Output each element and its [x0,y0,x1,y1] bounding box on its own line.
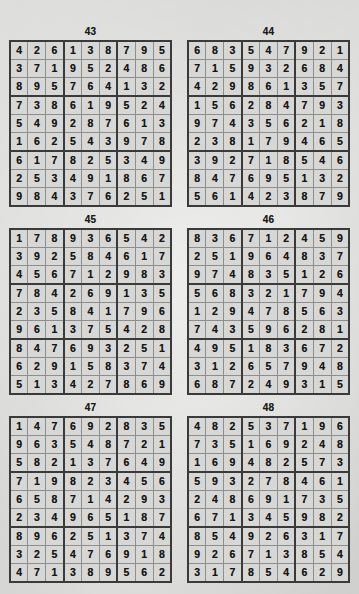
sudoku-cell: 5 [82,60,100,78]
sudoku-cell: 6 [206,454,224,473]
sudoku-cell: 9 [99,284,117,303]
sudoku-cell: 4 [313,151,331,170]
sudoku-cell: 3 [64,564,82,583]
sudoku-cell: 1 [242,339,260,358]
sudoku-cell: 9 [117,546,135,564]
sudoku-cell: 6 [46,527,64,546]
sudoku-cell: 3 [331,303,349,321]
sudoku-cell: 6 [277,527,295,546]
sudoku-cell: 3 [242,115,260,133]
sudoku-cell: 8 [153,321,171,340]
sudoku-cell: 6 [242,358,260,376]
sudoku-cell: 7 [260,303,278,321]
sudoku-cell: 3 [206,436,224,454]
sudoku-row: 495183672 [188,339,349,358]
sudoku-cell: 3 [277,339,295,358]
sudoku-cell: 8 [117,170,135,188]
sudoku-cell: 7 [64,491,82,509]
sudoku-cell: 9 [331,229,349,248]
puzzle-number-label: 43 [9,26,172,38]
sudoku-cell: 3 [64,188,82,207]
sudoku-cell: 2 [277,229,295,248]
sudoku-cell: 5 [46,78,64,97]
sudoku-row: 568321794 [188,284,349,303]
puzzle-46: 46 8367124592519648379748351265683217941… [187,214,350,395]
sudoku-cell: 7 [188,60,206,78]
sudoku-row: 169482573 [188,454,349,473]
sudoku-cell: 8 [64,151,82,170]
sudoku-cell: 5 [82,358,100,376]
sudoku-cell: 2 [46,454,64,473]
sudoku-cell: 1 [242,436,260,454]
puzzle-number-label: 48 [187,402,350,414]
sudoku-row: 234965187 [10,509,171,528]
sudoku-cell: 9 [64,229,82,248]
puzzle-number-label: 45 [9,214,172,226]
sudoku-cell: 8 [10,339,28,358]
sudoku-cell: 4 [295,229,313,248]
sudoku-cell: 3 [188,358,206,376]
sudoku-cell: 8 [82,248,100,266]
sudoku-row: 743596281 [188,321,349,340]
sudoku-cell: 9 [277,133,295,152]
sudoku-cell: 5 [242,417,260,436]
sudoku-cell: 5 [206,248,224,266]
sudoku-row: 312657948 [188,358,349,376]
sudoku-cell: 9 [224,78,242,97]
sudoku-cell: 9 [188,546,206,564]
sudoku-cell: 7 [188,436,206,454]
sudoku-cell: 8 [277,472,295,491]
sudoku-row: 582137649 [10,454,171,473]
sudoku-row: 683547921 [188,41,349,60]
sudoku-cell: 9 [206,339,224,358]
sudoku-row: 513427869 [10,376,171,395]
sudoku-cell: 9 [260,170,278,188]
sudoku-cell: 6 [260,78,278,97]
sudoku-grid-46: 8367124592519648379748351265683217941294… [187,228,350,395]
sudoku-cell: 3 [135,284,153,303]
sudoku-cell: 9 [82,339,100,358]
puzzle-number-label: 47 [9,402,172,414]
sudoku-cell: 6 [46,266,64,285]
sudoku-cell: 6 [135,376,153,395]
sudoku-cell: 8 [46,229,64,248]
sudoku-cell: 8 [260,454,278,473]
sudoku-cell: 7 [313,188,331,207]
sudoku-cell: 8 [313,60,331,78]
sudoku-cell: 3 [10,60,28,78]
sudoku-cell: 2 [188,133,206,152]
sudoku-cell: 6 [153,60,171,78]
sudoku-cell: 8 [153,546,171,564]
sudoku-cell: 9 [117,266,135,285]
sudoku-cell: 8 [331,436,349,454]
puzzle-48: 48 4825371967351692481694825735932784612… [187,402,350,583]
sudoku-cell: 6 [242,170,260,188]
sudoku-cell: 8 [331,358,349,376]
sudoku-cell: 3 [64,321,82,340]
sudoku-cell: 2 [28,358,46,376]
sudoku-cell: 4 [206,491,224,509]
sudoku-cell: 1 [117,509,135,528]
sudoku-row: 129478563 [188,303,349,321]
sudoku-cell: 4 [82,133,100,152]
sudoku-cell: 2 [99,266,117,285]
sudoku-cell: 1 [277,284,295,303]
sudoku-cell: 6 [82,284,100,303]
sudoku-cell: 9 [313,417,331,436]
sudoku-row: 593278461 [188,472,349,491]
sudoku-cell: 2 [260,527,278,546]
sudoku-cell: 8 [135,509,153,528]
sudoku-cell: 2 [117,491,135,509]
sudoku-cell: 5 [64,248,82,266]
sudoku-cell: 6 [82,78,100,97]
sudoku-cell: 4 [153,96,171,115]
sudoku-cell: 2 [313,266,331,285]
puzzle-45: 45 1789365423925846174567129837842691352… [9,214,172,395]
sudoku-cell: 5 [82,527,100,546]
sudoku-grid-44: 6835479217159326844298613571562847939743… [187,40,350,207]
sudoku-cell: 3 [242,284,260,303]
sudoku-cell: 4 [331,546,349,564]
sudoku-cell: 1 [28,472,46,491]
sudoku-cell: 8 [206,417,224,436]
puzzle-row-3: 47 1476928359635487215821376497198234566… [9,402,350,583]
